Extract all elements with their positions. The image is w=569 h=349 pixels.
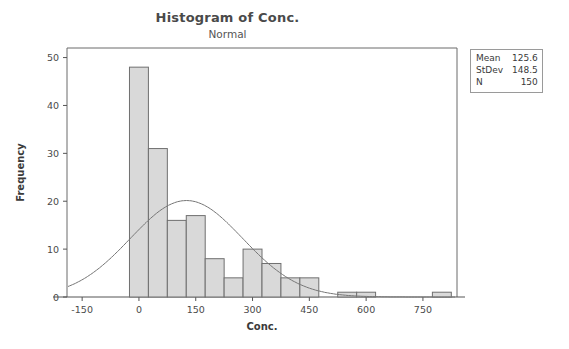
histogram-bar <box>432 292 451 297</box>
histogram-bar <box>300 278 319 297</box>
histogram-bar <box>186 216 205 297</box>
svg-text:0: 0 <box>136 304 142 315</box>
svg-text:150: 150 <box>187 304 205 315</box>
histogram-bar <box>224 278 243 297</box>
histogram-bar <box>243 249 262 297</box>
svg-text:0: 0 <box>53 292 59 303</box>
histogram-bars <box>129 67 451 297</box>
svg-text:20: 20 <box>47 196 59 207</box>
histogram-bar <box>129 67 148 297</box>
svg-text:300: 300 <box>243 304 261 315</box>
svg-text:30: 30 <box>47 148 59 159</box>
histogram-bar <box>148 149 167 297</box>
histogram-plot: -1500150300450600750 01020304050 Conc. F… <box>0 0 569 349</box>
histogram-screenshot: Histogram of Conc. Normal Mean 125.6 StD… <box>0 0 569 349</box>
y-axis-ticks: 01020304050 <box>47 52 67 302</box>
svg-text:50: 50 <box>47 52 59 63</box>
histogram-bar <box>262 263 281 297</box>
histogram-bar <box>167 220 186 297</box>
svg-text:-150: -150 <box>71 304 93 315</box>
svg-text:750: 750 <box>414 304 432 315</box>
histogram-bar <box>205 259 224 297</box>
x-axis-title: Conc. <box>246 321 277 332</box>
histogram-bar <box>281 278 300 297</box>
svg-text:10: 10 <box>47 244 59 255</box>
x-axis-ticks: -1500150300450600750 <box>71 297 432 315</box>
svg-text:450: 450 <box>300 304 318 315</box>
y-axis-title: Frequency <box>15 143 26 202</box>
svg-text:600: 600 <box>357 304 375 315</box>
svg-text:40: 40 <box>47 100 59 111</box>
